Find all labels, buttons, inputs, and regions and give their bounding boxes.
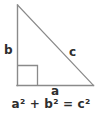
- pythagorean-theorem-figure: b c a a² + b² = c²: [0, 0, 102, 116]
- side-label-b: b: [4, 44, 13, 56]
- side-label-c: c: [69, 46, 76, 58]
- hypotenuse-line: [18, 5, 94, 86]
- right-angle-marker-icon: [18, 66, 38, 86]
- side-label-a: a: [51, 85, 59, 97]
- pythagorean-equation: a² + b² = c²: [0, 98, 102, 110]
